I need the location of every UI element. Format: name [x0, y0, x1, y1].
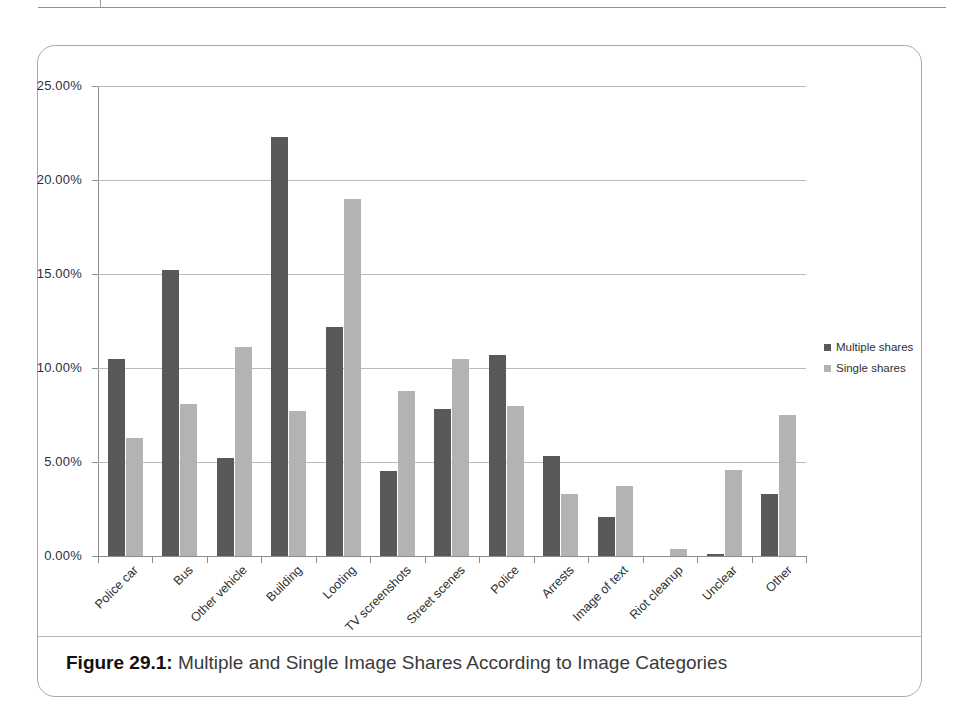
bar-multiple-shares [598, 517, 615, 556]
bar-group [588, 86, 642, 556]
bar-multiple-shares [543, 456, 560, 556]
bar-multiple-shares [326, 327, 343, 556]
chart-legend: Multiple sharesSingle shares [824, 341, 916, 383]
bar-single-shares [398, 391, 415, 556]
x-axis-labels: Police carBusOther vehicleBuildingLootin… [98, 563, 858, 643]
bar-group [261, 86, 315, 556]
y-axis-tick-label: 25.00% [37, 78, 82, 93]
legend-item: Multiple shares [824, 341, 916, 353]
y-axis-tick-label: 5.00% [44, 454, 82, 469]
legend-label: Single shares [836, 362, 906, 374]
bar-single-shares [507, 406, 524, 556]
bar-single-shares [289, 411, 306, 556]
y-axis-tick-label: 0.00% [44, 548, 82, 563]
bar-group [98, 86, 152, 556]
bar-group [207, 86, 261, 556]
bar-single-shares [616, 486, 633, 556]
plot-area [98, 86, 806, 556]
legend-swatch-icon [824, 344, 831, 351]
figure-caption-text: Multiple and Single Image Shares Accordi… [173, 652, 727, 673]
bar-single-shares [126, 438, 143, 556]
bar-single-shares [180, 404, 197, 556]
bar-single-shares [344, 199, 361, 556]
x-axis-tick [98, 556, 99, 563]
figure-caption-label: Figure 29.1: [66, 652, 173, 673]
y-axis-tick-label: 20.00% [37, 172, 82, 187]
bar-group [370, 86, 424, 556]
bar-single-shares [725, 470, 742, 556]
bar-group [534, 86, 588, 556]
bar-multiple-shares [108, 359, 125, 556]
bar-group [425, 86, 479, 556]
bar-chart: 0.00%5.00%10.00%15.00%20.00%25.00% Polic… [0, 0, 953, 640]
bar-group [752, 86, 806, 556]
caption-divider [38, 636, 921, 637]
bar-single-shares [561, 494, 578, 556]
bar-group [697, 86, 751, 556]
bar-single-shares [779, 415, 796, 556]
bar-group [643, 86, 697, 556]
y-axis-tick-label: 10.00% [37, 360, 82, 375]
y-axis-labels: 0.00%5.00%10.00%15.00%20.00%25.00% [0, 86, 90, 556]
bar-multiple-shares [271, 137, 288, 556]
bar-single-shares [235, 347, 252, 556]
bar-group [479, 86, 533, 556]
legend-swatch-icon [824, 365, 831, 372]
bar-group [316, 86, 370, 556]
legend-item: Single shares [824, 362, 916, 374]
bars-layer [98, 86, 806, 556]
legend-label: Multiple shares [836, 341, 913, 353]
figure-caption: Figure 29.1: Multiple and Single Image S… [66, 650, 906, 676]
bar-multiple-shares [162, 270, 179, 556]
y-axis-tick-label: 15.00% [37, 266, 82, 281]
bar-multiple-shares [217, 458, 234, 556]
bar-group [152, 86, 206, 556]
